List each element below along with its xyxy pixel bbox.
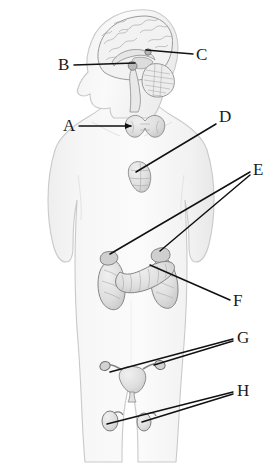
endocrine-system-figure: ABCDEFGH [0, 0, 273, 466]
adrenal-gland-left [100, 251, 118, 265]
testis-left [102, 411, 118, 431]
label-a: A [63, 116, 76, 135]
label-b: B [58, 55, 69, 74]
label-h: H [237, 381, 249, 400]
label-c: C [196, 45, 207, 64]
diagram-canvas: ABCDEFGH [0, 0, 273, 466]
label-e: E [253, 160, 263, 179]
label-g: G [237, 328, 249, 347]
label-d: D [219, 107, 231, 126]
label-f: F [233, 291, 242, 310]
